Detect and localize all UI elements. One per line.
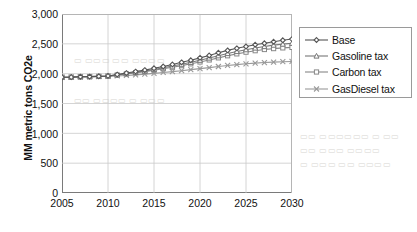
x-tick-label: 2015 (134, 197, 174, 209)
legend-label: Base (332, 34, 355, 46)
legend-label: GasDiesel tax (332, 83, 395, 95)
x-tick-label: 2030 (272, 197, 312, 209)
diamond-marker-icon (304, 33, 329, 47)
legend-item-carbon-tax[interactable]: Carbon tax (304, 64, 381, 80)
plot-area (62, 14, 292, 193)
triangle-marker-icon (304, 49, 329, 63)
emissions-line-chart: ▭ ▭▭▭ ▭▭ ▭▭▭▭ ▭▭ ▭▭▭▭ ▭ ▭▭▭ ▭▭ ▭▭▭▭▭▭ ▭ … (0, 0, 417, 232)
square-marker-icon (304, 65, 329, 79)
x-marker-icon (304, 82, 329, 96)
legend-item-gasdiesel-tax[interactable]: GasDiesel tax (304, 81, 395, 97)
legend-item-gasoline-tax[interactable]: Gasoline tax (304, 48, 388, 64)
x-tick-label: 2005 (42, 197, 82, 209)
x-tick-label: 2025 (226, 197, 266, 209)
legend-item-base[interactable]: Base (304, 32, 355, 48)
series-base (62, 37, 292, 80)
gridlines (62, 14, 292, 193)
chart-legend: BaseGasoline taxCarbon taxGasDiesel tax (299, 27, 412, 98)
legend-label: Gasoline tax (332, 50, 388, 62)
x-tick-label: 2010 (88, 197, 128, 209)
legend-label: Carbon tax (332, 66, 381, 78)
x-tick-label: 2020 (180, 197, 220, 209)
